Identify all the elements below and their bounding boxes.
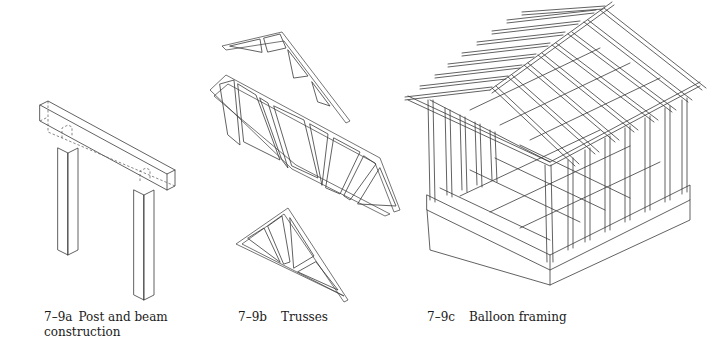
caption-7-9a-line2: construction [44, 325, 120, 339]
figure-number: 7–9a [44, 310, 72, 324]
figure-title: Balloon framing [469, 310, 567, 324]
balloon-framing-illustration [400, 0, 723, 300]
figure-balloon-framing: 7–9cBalloon framing [400, 0, 723, 344]
figure-number: 7–9b [238, 310, 267, 324]
caption-7-9b: 7–9bTrusses [238, 310, 328, 324]
figure-title-continued: construction [44, 325, 120, 339]
post-and-beam-illustration [0, 0, 200, 300]
figure-title: Post and beam [78, 310, 167, 324]
figure-trusses: 7–9bTrusses [200, 0, 400, 344]
caption-7-9c: 7–9cBalloon framing [427, 310, 567, 324]
trusses-illustration [200, 0, 400, 300]
figure-post-and-beam: 7–9aPost and beam construction [0, 0, 200, 344]
figure-number: 7–9c [427, 310, 455, 324]
figure-title: Trusses [281, 310, 328, 324]
caption-7-9a: 7–9aPost and beam [44, 310, 168, 324]
